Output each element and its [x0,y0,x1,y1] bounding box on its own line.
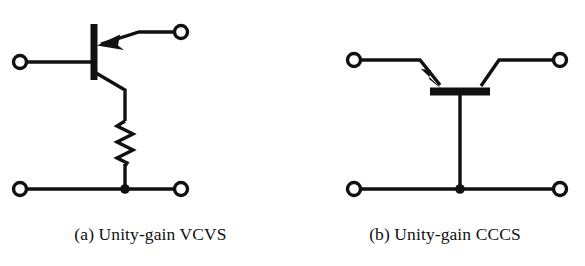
voltage-controlled-voltage-source-circuit [0,0,293,222]
junction-dot [120,184,130,194]
input-terminal-right[interactable] [554,54,567,67]
output-terminal-bottom-left[interactable] [348,183,361,196]
output-terminal-bottom-left[interactable] [14,183,27,196]
input-terminal-left[interactable] [14,56,27,69]
output-terminal-bottom-right[interactable] [175,183,188,196]
input-terminal-left[interactable] [348,54,361,67]
input-terminal-top-right[interactable] [175,26,188,39]
figure-panel-a: (a) Unity-gain VCVS [0,0,293,266]
junction-dot [455,184,465,194]
emitter-arrowhead-icon [421,69,443,90]
output-terminal-bottom-right[interactable] [554,183,567,196]
collector-lead-wire [481,60,554,86]
transistor-base-bar [91,24,98,80]
figure-panel-b: (b) Unity-gain CCCS [293,0,585,266]
resistor [117,121,133,166]
panel-a-caption: (a) Unity-gain VCVS [0,222,297,246]
collector-lead-wire [96,73,125,121]
current-controlled-current-source-circuit [293,0,585,222]
panel-b-caption: (b) Unity-gain CCCS [293,222,585,246]
figure-root: (a) Unity-gain VCVS [0,0,585,266]
